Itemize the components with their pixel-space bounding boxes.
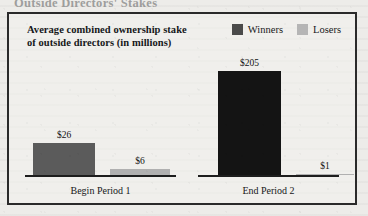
category-label-begin-period-1: Begin Period 1	[19, 185, 182, 197]
bar-group-0-bars: $26 $6	[25, 25, 176, 175]
bar-group-1-bars: $205 $1	[198, 25, 339, 175]
bar-value-losers-end-period-2: $1	[320, 161, 330, 172]
category-label-end-period-2: End Period 2	[192, 185, 345, 197]
clipped-page-heading: Outside Directors' Stakes	[14, 0, 214, 8]
page-background: Outside Directors' Stakes Average combin…	[0, 0, 368, 216]
bar-value-winners-begin-period-1: $26	[57, 130, 71, 141]
bar-value-winners-end-period-2: $205	[240, 58, 259, 69]
axis-baseline-group-1	[198, 175, 339, 177]
plot-area: $26 $6 Begin Period 1 $205	[9, 14, 355, 203]
bar-winners-end-period-2: $205	[218, 71, 281, 175]
bar-value-losers-begin-period-1: $6	[135, 156, 145, 167]
bar-rect-winners-end-period-2	[218, 71, 281, 175]
chart-figure: Average combined ownership stake of outs…	[7, 12, 357, 205]
bar-group-end-period-2: $205 $1 End Period 2	[192, 14, 345, 203]
bar-rect-winners-begin-period-1	[33, 143, 95, 175]
bar-winners-begin-period-1: $26	[33, 143, 95, 175]
axis-baseline-group-0	[25, 175, 176, 177]
bar-group-begin-period-1: $26 $6 Begin Period 1	[19, 14, 182, 203]
